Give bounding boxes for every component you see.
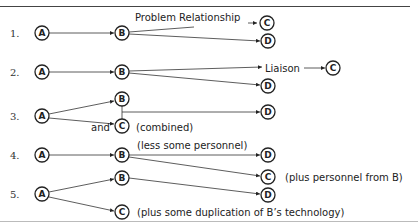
row-1: 1. Problem Relationship A B C D	[10, 12, 275, 48]
row-2: 2. Liaison A B C D	[10, 61, 340, 93]
edge-b-d	[129, 73, 260, 85]
svg-text:B: B	[119, 28, 126, 38]
node-c: C	[115, 119, 129, 133]
svg-text:D: D	[264, 190, 271, 200]
svg-text:B: B	[119, 173, 126, 183]
node-b: B	[115, 65, 129, 79]
svg-text:B: B	[119, 150, 126, 160]
row-number: 5.	[10, 189, 20, 200]
row-3: 3. and (combined) A B C D	[10, 92, 275, 133]
edge-b-c	[129, 157, 260, 176]
combined-label: (combined)	[136, 122, 193, 133]
row-number: 3.	[10, 111, 20, 122]
node-a: A	[35, 26, 49, 40]
edge-b-relationship	[129, 27, 194, 32]
plus-personnel-label: (plus personnel from B)	[285, 172, 403, 183]
node-d: D	[261, 188, 275, 202]
node-a: A	[35, 148, 49, 162]
row-4: 4. (less some personnel) (plus personnel…	[10, 140, 403, 184]
edge-b-liaison	[129, 67, 262, 71]
node-c: C	[326, 61, 340, 75]
row-number: 2.	[10, 67, 20, 78]
node-b: B	[115, 26, 129, 40]
liaison-label: Liaison	[265, 63, 300, 74]
node-b: B	[115, 148, 129, 162]
svg-text:B: B	[119, 94, 126, 104]
svg-text:A: A	[39, 67, 46, 77]
svg-text:D: D	[264, 150, 271, 160]
node-d: D	[261, 105, 275, 119]
svg-text:D: D	[264, 36, 271, 46]
svg-text:B: B	[119, 67, 126, 77]
row-number: 4.	[10, 150, 20, 161]
row-number: 1.	[10, 28, 20, 39]
edge-a-b	[49, 179, 114, 192]
svg-text:C: C	[119, 207, 126, 217]
node-a: A	[35, 187, 49, 201]
edge-b-d	[129, 34, 260, 41]
node-a: A	[35, 65, 49, 79]
node-a: A	[35, 109, 49, 123]
svg-text:A: A	[39, 150, 46, 160]
node-b: B	[115, 171, 129, 185]
svg-text:A: A	[39, 111, 46, 121]
node-c: C	[261, 170, 275, 184]
problem-relationship-label: Problem Relationship	[135, 12, 240, 23]
svg-text:C: C	[119, 121, 126, 131]
svg-text:A: A	[39, 28, 46, 38]
svg-text:C: C	[265, 172, 272, 182]
node-d: D	[261, 79, 275, 93]
node-b: B	[115, 92, 129, 106]
edge-b-d	[129, 178, 260, 194]
organization-diagram: 1. Problem Relationship A B C D 2. Liais…	[0, 0, 418, 223]
node-c: C	[260, 16, 274, 30]
svg-text:C: C	[264, 18, 271, 28]
svg-text:D: D	[264, 107, 271, 117]
node-c: C	[115, 205, 129, 219]
and-label: and	[91, 122, 110, 133]
edge-a-c	[49, 197, 114, 211]
svg-text:A: A	[39, 189, 46, 199]
node-d: D	[261, 34, 275, 48]
node-d: D	[261, 148, 275, 162]
edge-a-b	[49, 101, 114, 114]
svg-text:D: D	[264, 81, 271, 91]
less-personnel-label: (less some personnel)	[137, 140, 247, 151]
svg-text:C: C	[330, 63, 337, 73]
duplication-label: (plus some duplication of B’s technology…	[137, 207, 344, 218]
